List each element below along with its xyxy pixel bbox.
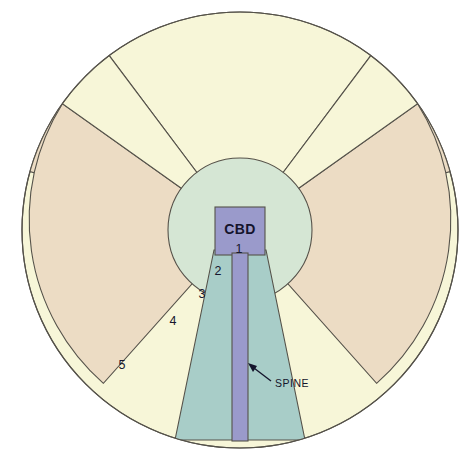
spine-bar: [232, 253, 248, 441]
model-canvas: CBD 1 2 3 4 5 SPINE: [0, 0, 470, 458]
zone-label-1: 1: [236, 242, 243, 256]
urban-model-diagram: CBD 1 2 3 4 5 SPINE: [0, 0, 470, 458]
zone-label-2: 2: [215, 264, 222, 278]
zone-label-3: 3: [199, 287, 206, 301]
zone-label-5: 5: [119, 358, 126, 372]
zone-label-4: 4: [170, 314, 177, 328]
spine-label: SPINE: [275, 377, 309, 389]
cbd-label: CBD: [224, 221, 256, 237]
